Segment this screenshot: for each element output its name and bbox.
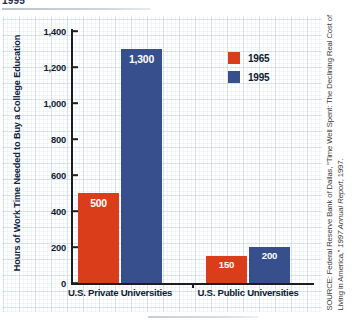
source-italic-title: 1997 Annual Report xyxy=(336,181,345,247)
source-note: SOURCE: Federal Reserve Bank of Dallas, … xyxy=(325,5,346,311)
legend-label: 1965 xyxy=(248,53,269,64)
bottom-divider-rule xyxy=(148,316,258,318)
bar-chart: Hours of Work Time Needed to Buy a Colle… xyxy=(0,0,356,324)
y-tick-label: 1,400 xyxy=(22,26,66,37)
chart-legend: 19651995 xyxy=(228,52,269,90)
y-tick-label: 1,000 xyxy=(22,98,66,109)
bar-1995-private: 1,300 xyxy=(121,49,162,283)
y-axis-line xyxy=(71,29,73,285)
x-category-label: U.S. Public Universities xyxy=(188,287,308,298)
source-suffix: , 1997. xyxy=(336,159,345,182)
y-axis-tick-labels: 02004006008001,0001,2001,400 xyxy=(22,0,66,324)
y-tick-label: 800 xyxy=(22,134,66,145)
y-tick-mark xyxy=(73,174,78,176)
bar-value-label: 1,300 xyxy=(121,54,162,65)
bar-value-label: 200 xyxy=(249,250,290,261)
legend-color-swatch xyxy=(228,71,240,83)
y-tick-mark xyxy=(73,102,78,104)
legend-item-1965: 1965 xyxy=(228,52,269,64)
legend-item-1995: 1995 xyxy=(228,71,269,83)
y-tick-mark xyxy=(73,138,78,140)
bar-1995-public: 200 xyxy=(249,247,290,283)
y-tick-mark xyxy=(73,66,78,68)
legend-color-swatch xyxy=(228,52,240,64)
y-axis-title: Hours of Work Time Needed to Buy a Colle… xyxy=(12,28,22,278)
bar-1965-public: 150 xyxy=(206,256,247,283)
x-category-label: U.S. Private Universities xyxy=(60,287,180,298)
legend-label: 1995 xyxy=(248,72,269,83)
y-tick-label: 600 xyxy=(22,170,66,181)
y-tick-mark xyxy=(73,30,78,32)
y-tick-label: 1,200 xyxy=(22,62,66,73)
bar-value-label: 500 xyxy=(78,198,119,209)
y-tick-label: 400 xyxy=(22,206,66,217)
bar-value-label: 150 xyxy=(206,259,247,270)
y-tick-label: 200 xyxy=(22,242,66,253)
bar-1965-private: 500 xyxy=(78,193,119,283)
